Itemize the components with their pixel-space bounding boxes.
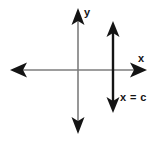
y-axis: [72, 8, 85, 134]
coordinate-plane-graphic: x y x = c: [0, 0, 157, 141]
coordinate-plane-figure: x y x = c: [0, 0, 157, 141]
vertical-line-label: x = c: [120, 91, 147, 103]
vertical-line-x-equals-c: [107, 21, 120, 113]
x-axis-label: x: [138, 52, 145, 64]
y-axis-label: y: [84, 6, 91, 18]
